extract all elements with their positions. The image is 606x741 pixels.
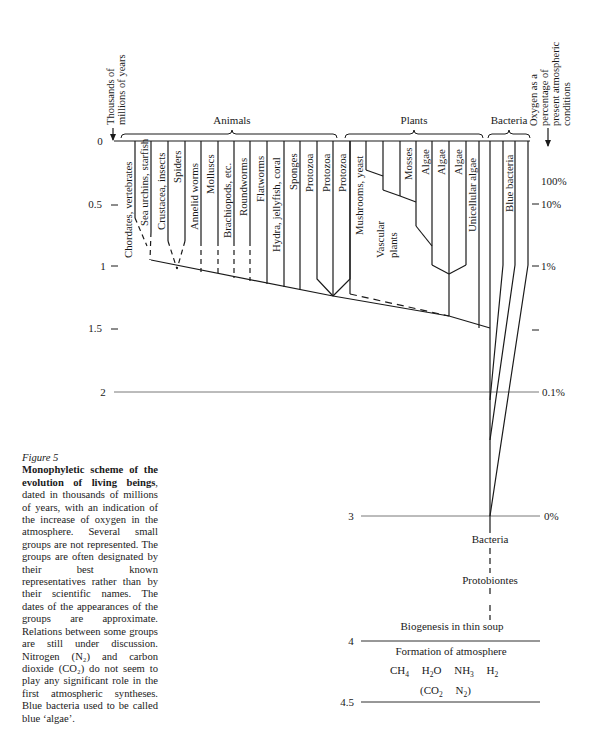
bacteria-brace [488, 130, 530, 138]
label-spiders: Spiders [171, 151, 183, 183]
right-axis-title-line3: present atmospheric [550, 41, 561, 126]
left-axis-title-line2: millions of years [116, 54, 127, 125]
label-protobiontes: Protobiontes [462, 574, 518, 586]
figure-body: , dated in thousands of millions of year… [22, 477, 158, 724]
label-vascular-line1: Vascular [374, 220, 386, 258]
label-mushrooms: Mushrooms, yeast [353, 156, 365, 235]
origin-labels: Bacteria Protobiontes Biogenesis in thin… [395, 533, 522, 657]
label-sponges: Sponges [287, 153, 299, 190]
label-algae-3: Algae [452, 149, 464, 175]
label-annelid-worms: Annelid worms [188, 163, 200, 230]
oxygen-1: 1% [541, 260, 556, 272]
tick-0-5: 0.5 [88, 198, 102, 210]
label-blue-bacteria: Blue bacteria [503, 155, 515, 212]
tick-3: 3 [348, 510, 354, 522]
label-hydra: Hydra, jellyfish, coral [270, 157, 282, 252]
group-label-animals: Animals [213, 114, 250, 126]
oxygen-0-1: 0.1% [542, 386, 565, 398]
label-mosses: Mosses [402, 148, 414, 180]
figure-title: Monophyletic scheme of the evolution of … [22, 464, 158, 487]
plants-brace [345, 130, 483, 138]
figure-label: Figure 5 [22, 452, 158, 464]
gases-row2: (CO2 N2) [420, 684, 471, 699]
right-axis-arrow-icon [545, 128, 551, 147]
group-labels: Animals Plants Bacteria [213, 114, 527, 126]
label-origin-bacteria: Bacteria [472, 533, 509, 545]
left-axis-arrow-icon [110, 128, 116, 141]
oxygen-0: 0% [544, 510, 559, 522]
label-molluscs: Molluscs [204, 154, 216, 194]
lineage-labels: Chordates, vertebrates Sea urchins, star… [122, 138, 515, 258]
left-axis-title-line1: Thousands of [105, 68, 116, 125]
right-axis-title-line4: conditions [561, 82, 572, 126]
label-algae-2: Algae [435, 149, 447, 175]
tick-4-5: 4.5 [340, 696, 354, 708]
tick-0: 0 [97, 135, 103, 147]
label-biogenesis: Biogenesis in thin soup [401, 620, 504, 632]
left-axis-title: Thousands of millions of years [105, 54, 127, 125]
label-protozoa-1: Protozoa [303, 153, 315, 192]
right-axis-ticks: 100% 10% 1% 0.1% 0% [532, 175, 567, 522]
right-axis-title: Oxygen as a percentage of present atmosp… [528, 41, 572, 126]
label-roundworms: Roundworms [237, 158, 249, 216]
label-protozoa-3: Protozoa [336, 153, 348, 192]
label-algae-1: Algae [419, 149, 431, 175]
tick-1-5: 1.5 [88, 322, 102, 334]
label-sea-urchins: Sea urchins, starfish [138, 138, 150, 226]
oxygen-100: 100% [541, 175, 567, 187]
label-chordates: Chordates, vertebrates [122, 161, 134, 258]
figure-caption: Figure 5 Monophyletic scheme of the evol… [22, 452, 158, 725]
right-axis-title-line2: percentage of [539, 69, 550, 126]
group-label-plants: Plants [401, 114, 428, 126]
label-vascular-line2: plants [387, 232, 399, 258]
tick-4: 4 [348, 635, 354, 647]
gases-row1: CH4 H2O NH3 H2 [390, 664, 499, 679]
right-axis-title-line1: Oxygen as a [528, 74, 539, 126]
label-crustacea: Crustacea, insects [155, 153, 167, 230]
label-brachiopods: Brachiopods, etc. [221, 163, 233, 238]
atmosphere-gases: CH4 H2O NH3 H2 (CO2 N2) [390, 664, 499, 699]
label-protozoa-2: Protozoa [320, 153, 332, 192]
label-flatworms: Flatworms [254, 156, 266, 202]
group-label-bacteria: Bacteria [491, 114, 528, 126]
tick-2: 2 [100, 386, 106, 398]
label-unicellular-algae: Unicellular algae [466, 158, 478, 232]
tick-1: 1 [100, 260, 106, 272]
oxygen-10: 10% [541, 198, 561, 210]
group-braces [121, 130, 530, 138]
animals-brace [121, 130, 337, 138]
label-atmosphere-formation: Formation of atmosphere [395, 645, 506, 657]
